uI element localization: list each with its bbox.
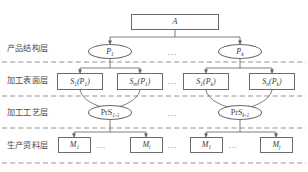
node-mj-right[interactable]: Mj [260, 137, 293, 153]
diagram-canvas: 产品结构层 加工表面层 加工工艺层 生产资料层 A P1 Pk ... S1(P… [0, 0, 308, 172]
node-prs-1-1[interactable]: PrS1-1 [88, 105, 132, 120]
layer-label-machining-surface: 加工表面层 [7, 76, 48, 84]
layer-label-production-resource: 生产资料层 [7, 141, 48, 149]
node-prs-k-1-label: PrSk-1 [231, 109, 249, 117]
node-root-a[interactable]: A [131, 14, 219, 30]
node-pk[interactable]: Pk [218, 44, 262, 59]
node-s1-pk-label: S1(Pk) [196, 78, 215, 86]
node-s1-pk[interactable]: S1(Pk) [183, 73, 229, 90]
node-s1-p1[interactable]: S1(P1) [57, 73, 103, 90]
node-mi-left[interactable]: Mi [130, 137, 163, 153]
node-sm-p1[interactable]: Sm(P1) [117, 73, 163, 90]
ellipsis-surface-layer: ... [168, 78, 177, 86]
layer-label-machining-process: 加工工艺层 [7, 108, 48, 116]
layer-label-product-structure: 产品结构层 [7, 44, 48, 52]
ellipsis-resource-left: ... [97, 142, 106, 150]
node-mj-right-label: Mj [272, 141, 280, 149]
node-root-a-label: A [173, 18, 178, 26]
node-sm-p1-label: Sm(P1) [130, 78, 151, 86]
node-mi-left-label: Mi [142, 141, 150, 149]
node-p1-label: P1 [106, 48, 114, 56]
node-m1-left[interactable]: M1 [58, 137, 91, 153]
node-s1-p1-label: S1(P1) [70, 78, 90, 86]
ellipsis-resource-middle: ... [168, 142, 177, 150]
node-m1-right-label: M1 [202, 141, 211, 149]
ellipsis-process-layer: ... [168, 110, 177, 118]
node-prs-k-1[interactable]: PrSk-1 [218, 105, 262, 120]
node-prs-1-1-label: PrS1-1 [101, 109, 120, 117]
ellipsis-resource-right: ... [229, 142, 238, 150]
node-sn-pk[interactable]: Sn(Pk) [249, 73, 295, 90]
node-m1-right[interactable]: M1 [190, 137, 223, 153]
node-sn-pk-label: Sn(Pk) [262, 78, 281, 86]
node-p1[interactable]: P1 [88, 44, 132, 59]
ellipsis-product-layer: ... [168, 49, 177, 57]
node-m1-left-label: M1 [70, 141, 79, 149]
node-pk-label: Pk [236, 48, 243, 56]
